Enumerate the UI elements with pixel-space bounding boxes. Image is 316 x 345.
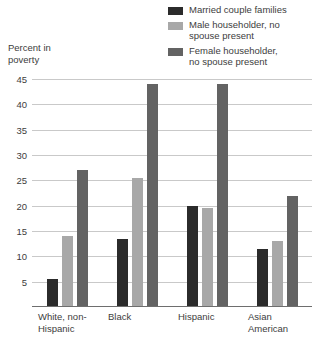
legend-swatch-married-couple-families — [168, 7, 183, 15]
legend-swatch-male-householder — [168, 22, 183, 30]
bar — [272, 241, 283, 307]
y-axis-tick-label: 45 — [16, 74, 27, 85]
bar — [187, 206, 198, 307]
plot-area: 51015202530354045 — [32, 79, 312, 307]
bar — [132, 178, 143, 307]
x-axis-category-label: Asian American — [248, 311, 316, 334]
bar — [287, 196, 298, 307]
bar-group — [32, 79, 102, 307]
legend-item-female-householder: Female householder, no spouse present — [168, 45, 316, 68]
legend-item-male-householder: Male householder, no spouse present — [168, 19, 316, 42]
x-axis-category-label: Hispanic — [178, 311, 248, 323]
legend-swatch-female-householder — [168, 48, 183, 56]
bar — [217, 84, 228, 307]
chart-legend: Married couple families Male householder… — [168, 4, 316, 71]
y-axis-tick-label: 40 — [16, 99, 27, 110]
y-axis-tick-label: 10 — [16, 251, 27, 262]
bar-group — [242, 79, 312, 307]
y-axis-tick-label: 35 — [16, 124, 27, 135]
legend-label-female-householder: Female householder, no spouse present — [189, 45, 278, 68]
bar — [147, 84, 158, 307]
bar — [77, 170, 88, 307]
bar — [117, 239, 128, 307]
x-axis-category-label: White, non- Hispanic — [38, 311, 108, 334]
bar — [257, 249, 268, 307]
y-axis-tick-label: 25 — [16, 175, 27, 186]
bar — [62, 236, 73, 307]
legend-label-married-couple-families: Married couple families — [189, 4, 287, 16]
bar — [202, 208, 213, 307]
y-axis-tick-label: 5 — [22, 276, 27, 287]
bar — [47, 279, 58, 307]
legend-item-married-couple-families: Married couple families — [168, 4, 316, 16]
x-axis-line — [32, 306, 312, 307]
bar-group — [102, 79, 172, 307]
y-axis-title: Percent in poverty — [8, 42, 51, 65]
y-axis-tick-label: 30 — [16, 150, 27, 161]
y-axis-tick-label: 20 — [16, 200, 27, 211]
bar-group — [172, 79, 242, 307]
y-axis-tick-label: 15 — [16, 226, 27, 237]
x-axis-category-label: Black — [108, 311, 178, 323]
legend-label-male-householder: Male householder, no spouse present — [189, 19, 280, 42]
